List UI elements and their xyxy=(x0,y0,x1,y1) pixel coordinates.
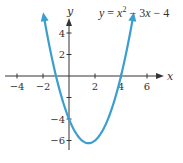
eq-const: − 4 xyxy=(151,6,170,20)
y-axis-arrow-icon xyxy=(66,18,72,26)
x-tick-label: 6 xyxy=(144,81,150,92)
x-tick-label: −2 xyxy=(36,81,51,92)
x-tick-label: −4 xyxy=(10,81,25,92)
curve-arrow-icon xyxy=(41,12,49,22)
x-tick-label: 2 xyxy=(92,81,98,92)
axes: xy xyxy=(5,5,174,150)
x-axis-arrow-icon xyxy=(156,73,164,79)
x-axis-label: x xyxy=(167,70,174,83)
y-axis-label: y xyxy=(66,5,74,18)
eq-term: − 3 xyxy=(126,6,145,20)
equation-label: y = x2 − 3x − 4 xyxy=(99,5,169,21)
y-tick-label: −6 xyxy=(50,135,65,146)
y-tick-label: 4 xyxy=(59,28,65,39)
eq-equals: = xyxy=(104,6,117,20)
plot-area: xy −4−224642−4−6 xyxy=(0,0,183,163)
y-tick-label: 2 xyxy=(59,49,65,60)
ticks: −4−224642−4−6 xyxy=(10,28,151,147)
y-tick-label: −4 xyxy=(50,114,65,125)
